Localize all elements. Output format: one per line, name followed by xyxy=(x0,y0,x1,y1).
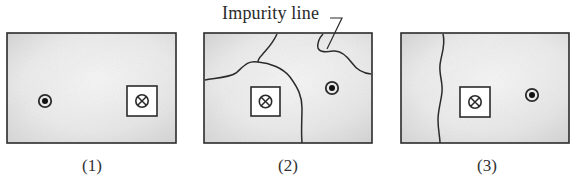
impurity-line-label: Impurity line xyxy=(222,3,319,24)
panel-2-grain xyxy=(204,33,372,143)
panel-2-caption: (2) xyxy=(268,156,308,176)
panel-3-caption: (3) xyxy=(467,156,507,176)
panel-1 xyxy=(7,33,176,143)
panel-2 xyxy=(204,18,372,143)
panel-3 xyxy=(401,33,569,143)
panel-1-caption: (1) xyxy=(72,156,112,176)
magnetic-field-diagram: Impurity line (1) (2) (3) xyxy=(0,0,571,188)
